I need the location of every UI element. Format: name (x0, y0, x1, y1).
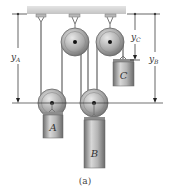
figure-caption: (a) (79, 176, 91, 186)
yB-label: yB (148, 54, 159, 65)
block-A: A (43, 112, 63, 138)
block-B-label: B (90, 148, 98, 159)
top-pulley-right (96, 28, 124, 56)
top-pulley-left (61, 28, 89, 56)
block-B: B (84, 117, 105, 168)
yC-label: yC (130, 32, 141, 43)
block-A-label: A (48, 122, 56, 133)
yA-label: yA (10, 52, 21, 63)
ceiling-hangers (36, 14, 116, 17)
block-C: C (113, 59, 134, 86)
pulley-system-diagram: C A B yA yC yB (a) (0, 0, 170, 192)
block-C-label: C (120, 70, 128, 81)
ceiling-support (27, 6, 126, 14)
